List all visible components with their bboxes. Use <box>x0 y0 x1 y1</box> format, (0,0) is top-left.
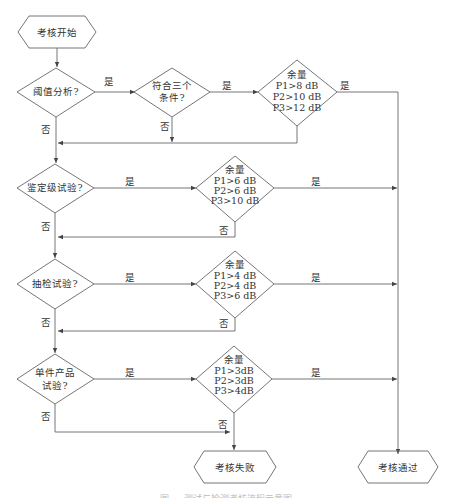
yes-label-2a: 是 <box>125 176 135 187</box>
margin-1-p2: P2>10 dB <box>273 92 322 103</box>
yes-label-4b: 是 <box>311 367 321 378</box>
yes-label-1a: 是 <box>104 76 114 87</box>
start-terminal: 考核开始 <box>37 27 77 38</box>
margin-3-p3: P3>6 dB <box>214 291 257 302</box>
yes-label-1c: 是 <box>340 80 350 91</box>
figure-caption: 图 — 测试与检测考核流程示意图 <box>0 492 452 498</box>
no-label-1: 否 <box>41 124 51 135</box>
margin-2-p3: P3>10 dB <box>211 196 260 207</box>
yes-label-3a: 是 <box>125 272 135 283</box>
threshold-analysis-question: 阈值分析? <box>33 87 78 98</box>
margin-1-title: 余量 <box>287 70 307 81</box>
qualification-test-question: 鉴定级试验? <box>27 183 82 194</box>
margin-1-p3: P3>12 dB <box>273 103 322 114</box>
sampling-test-question: 抽检试验? <box>32 279 77 290</box>
no-label-precheck: 否 <box>160 121 170 132</box>
margin-4-p3: P3>4dB <box>214 386 254 397</box>
pass-terminal: 考核通过 <box>378 462 418 473</box>
single-product-question-line-2: 试验? <box>42 381 67 392</box>
yes-label-1b: 是 <box>222 80 232 91</box>
fail-terminal: 考核失败 <box>215 462 255 473</box>
no-label-2b: 否 <box>219 225 229 236</box>
margin-3-title: 余量 <box>225 260 245 271</box>
yes-label-2b: 是 <box>311 176 321 187</box>
no-label-4b: 否 <box>218 419 228 430</box>
margin-1-p1: P1>8 dB <box>276 81 319 92</box>
single-product-test-diamond <box>17 354 94 404</box>
yes-label-4a: 是 <box>125 367 135 378</box>
no-label-3b: 否 <box>219 318 229 329</box>
no-label-2a: 否 <box>41 221 51 232</box>
precheck-line-2: 条件? <box>159 93 184 104</box>
precheck-line-1: 符合三个 <box>152 81 192 92</box>
margin-4-title: 余量 <box>224 355 244 366</box>
margin-2-title: 余量 <box>225 165 245 176</box>
yes-label-3b: 是 <box>311 272 321 283</box>
no-label-3a: 否 <box>41 317 51 328</box>
single-product-question-line-1: 单件产品 <box>35 368 75 379</box>
no-label-4a: 否 <box>41 411 51 422</box>
